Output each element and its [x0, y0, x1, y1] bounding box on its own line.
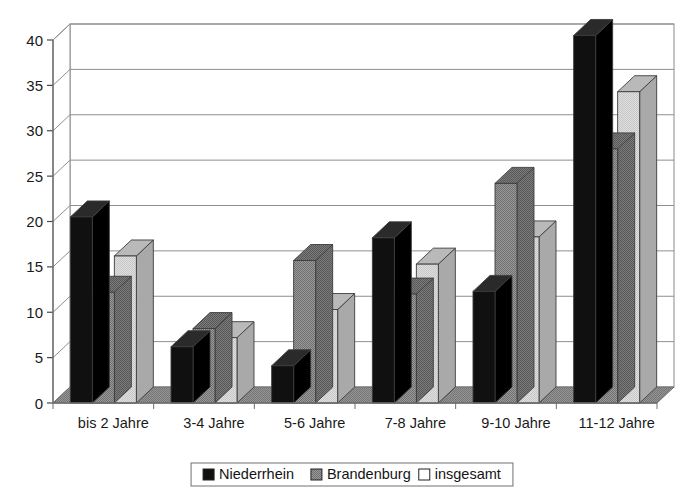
bar-side-face: [416, 278, 433, 403]
x-axis-category-labels: bis 2 Jahre3-4 Jahre5-6 Jahre7-8 Jahre9-…: [78, 415, 655, 431]
chart-legend: NiederrheinBrandenburginsgesamt: [191, 463, 513, 486]
x-axis-category-label: 9-10 Jahre: [481, 415, 550, 431]
bar-side-face: [316, 245, 333, 403]
legend-label: Niederrhein: [219, 466, 294, 482]
x-axis-category-label: bis 2 Jahre: [78, 415, 149, 431]
legend-swatch-brandenburg: [311, 469, 322, 480]
legend-swatch-niederrhein: [203, 469, 214, 480]
bar-front-face: [574, 35, 596, 403]
legend-swatch-insgesamt: [419, 469, 430, 480]
bar-side-face: [136, 240, 153, 403]
x-axis-category-label: 7-8 Jahre: [385, 415, 446, 431]
x-axis-category-label: 11-12 Jahre: [579, 415, 655, 431]
bar: [574, 19, 613, 403]
y-axis-tick-label: 25: [26, 168, 43, 185]
y-axis-tick-label: 0: [35, 395, 43, 412]
chart-container: 0510152025303540 bis 2 Jahre3-4 Jahre5-6…: [0, 0, 699, 500]
bar-side-face: [394, 222, 411, 403]
y-axis-tick-label: 15: [26, 258, 43, 275]
bar-front-face: [171, 347, 193, 403]
bar: [473, 275, 512, 403]
bar-side-face: [596, 19, 613, 403]
bar: [70, 201, 109, 403]
bar-chart: 0510152025303540 bis 2 Jahre3-4 Jahre5-6…: [0, 0, 699, 500]
bar-front-face: [372, 238, 394, 403]
y-axis-tick-label: 40: [26, 32, 43, 49]
bar-side-face: [438, 248, 455, 403]
x-axis-category-label: 3-4 Jahre: [183, 415, 244, 431]
y-axis-tick-label: 20: [26, 213, 43, 230]
bar-side-face: [114, 276, 131, 403]
bar-side-face: [640, 76, 657, 403]
y-axis-tick-label: 10: [26, 304, 43, 321]
bar-front-face: [473, 291, 495, 403]
bar-side-face: [517, 167, 534, 403]
y-axis-tick-label: 35: [26, 77, 43, 94]
bar: [372, 222, 411, 403]
legend-label: Brandenburg: [327, 466, 411, 482]
y-axis-labels: 0510152025303540: [26, 32, 43, 412]
bar-side-face: [539, 221, 556, 403]
x-axis-tick-marks: [53, 403, 657, 409]
bar-side-face: [92, 201, 109, 403]
y-axis-ticks: [47, 40, 53, 403]
y-axis-tick-label: 5: [35, 349, 43, 366]
bar-side-face: [495, 275, 512, 403]
y-axis-tick-label: 30: [26, 122, 43, 139]
bar-front-face: [272, 366, 294, 403]
bar: [171, 331, 210, 403]
bar-side-face: [618, 133, 635, 403]
x-axis-category-label: 5-6 Jahre: [284, 415, 345, 431]
legend-label: insgesamt: [435, 466, 501, 482]
bar-front-face: [70, 217, 92, 403]
bar-side-face: [338, 294, 355, 403]
